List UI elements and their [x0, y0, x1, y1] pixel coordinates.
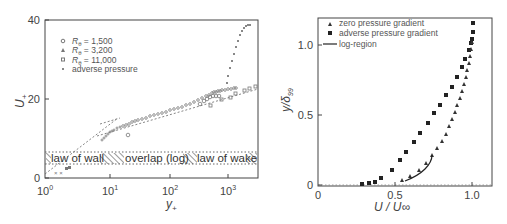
right-y-tick-0.5: 0.5	[298, 109, 313, 121]
left-x-tick-1e3: 103	[220, 184, 236, 197]
left-x-axis-label: y+	[165, 197, 177, 213]
log-law-line	[97, 89, 258, 136]
left-x-tick-1e1: 101	[102, 184, 118, 197]
right-chart: 0 0.5 1.0 y/δ99 0 0.5 1.0 U / U∞	[279, 18, 492, 214]
legend-item-adverse-pressure: adverse pressure	[72, 64, 138, 74]
region-label-overlap: overlap (log)	[125, 152, 189, 164]
left-x-tick-1e0: 100	[37, 184, 53, 197]
legend-triangle-icon	[328, 22, 332, 26]
left-x-axis: 100 101 102 103 y+	[37, 174, 236, 213]
legend-filled-square-icon	[328, 31, 332, 35]
left-legend: Rθ = 1,500 Rθ = 3,200 Rθ = 11,000 advers…	[61, 36, 138, 74]
region-band: law of wall overlap (log) law of wake	[45, 152, 258, 164]
right-legend: zero pressure gradient adverse pressure …	[323, 18, 438, 49]
left-y-tick-0: 0	[34, 172, 40, 184]
left-y-tick-20: 20	[28, 93, 40, 105]
viscous-sublayer-line	[45, 118, 118, 174]
right-y-axis: 0 0.5 1.0 y/δ99	[279, 39, 322, 191]
left-y-axis: 0 20 40 U+	[13, 14, 49, 184]
right-y-axis-label: y/δ99	[279, 88, 294, 113]
figure: law of wall overlap (log) law of wake × …	[0, 0, 507, 224]
adverse-pressure-gradient-points	[360, 21, 475, 186]
right-x-axis-label: U / U∞	[374, 200, 410, 214]
legend-square-icon	[62, 58, 65, 61]
legend-circle-icon	[61, 39, 65, 43]
region-label-law-of-wake: law of wake	[197, 152, 257, 164]
left-y-axis-label: U+	[13, 94, 29, 108]
svg-text:× ×: × ×	[54, 170, 63, 176]
legend-item-log-region: log-region	[339, 39, 377, 49]
right-y-tick-1.0: 1.0	[298, 39, 313, 51]
right-x-axis: 0 0.5 1.0 U / U∞	[315, 182, 480, 214]
left-y-tick-40: 40	[28, 14, 40, 26]
region-label-law-of-wall: law of wall	[51, 152, 104, 164]
left-x-tick-1e2: 102	[162, 184, 178, 197]
legend-triangle-icon	[61, 48, 65, 52]
legend-item-adverse-pressure-gradient: adverse pressure gradient	[339, 28, 438, 38]
left-chart: law of wall overlap (log) law of wake × …	[13, 14, 258, 213]
right-x-tick-0: 0	[315, 189, 321, 201]
legend-item-zero-pressure-gradient: zero pressure gradient	[339, 18, 425, 28]
right-y-tick-0: 0	[307, 179, 313, 191]
log-law-line-extension	[100, 118, 120, 124]
right-x-tick-1.0: 1.0	[464, 189, 479, 201]
zero-pressure-gradient-points	[400, 40, 474, 182]
legend-filled-square-icon	[62, 68, 64, 70]
